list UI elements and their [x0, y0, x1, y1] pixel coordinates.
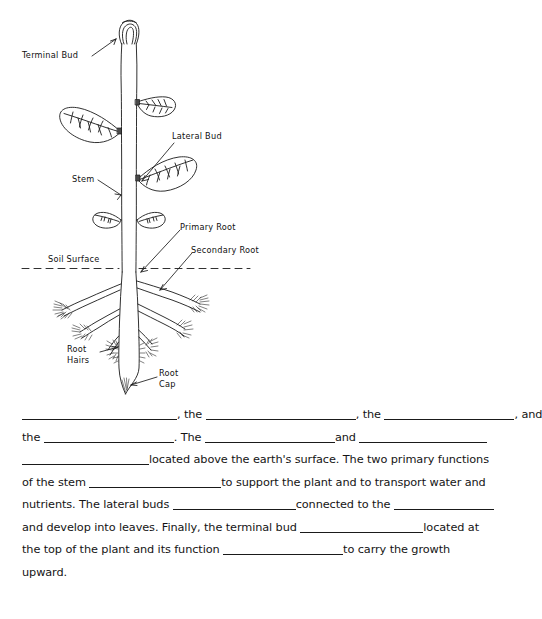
- answer-blank[interactable]: [89, 476, 221, 488]
- answer-blank[interactable]: [44, 431, 174, 443]
- worksheet-text: to carry the growth: [343, 543, 450, 556]
- leaf-mid-right: [136, 157, 197, 191]
- answer-blank[interactable]: [223, 543, 343, 555]
- label-lateral-bud: Lateral Bud: [172, 131, 222, 142]
- worksheet-line-1: , the , the , and: [22, 404, 488, 427]
- leaf-upper-right: [136, 97, 176, 117]
- worksheet-text: located at: [423, 521, 479, 534]
- worksheet-text: and: [335, 431, 359, 444]
- worksheet-text: . The: [174, 431, 205, 444]
- worksheet-line-8: upward.: [22, 562, 488, 585]
- answer-blank[interactable]: [394, 498, 494, 510]
- worksheet-text: connected to the: [296, 498, 394, 511]
- worksheet-text: of the stem: [22, 476, 89, 489]
- label-root-hairs-1: Root: [67, 344, 87, 355]
- answer-blank[interactable]: [384, 408, 514, 420]
- label-stem: Stem: [72, 174, 94, 185]
- worksheet-line-5: nutrients. The lateral buds connected to…: [22, 494, 488, 517]
- secondary-roots-right: [137, 281, 200, 350]
- worksheet-line-6: and develop into leaves. Finally, the te…: [22, 517, 488, 540]
- answer-blank[interactable]: [22, 453, 149, 465]
- plant-diagram: Terminal Bud Lateral Bud Stem Primary Ro…: [0, 0, 510, 400]
- answer-blank[interactable]: [206, 408, 356, 420]
- worksheet-text: nutrients. The lateral buds: [22, 498, 173, 511]
- answer-blank[interactable]: [173, 498, 296, 510]
- leaf-small-left: [93, 212, 121, 228]
- worksheet-text: the: [22, 431, 44, 444]
- label-root-hairs-2: Hairs: [67, 355, 89, 366]
- leaf-upper-left: [60, 107, 122, 142]
- label-soil-surface: Soil Surface: [48, 254, 100, 265]
- worksheet-text: and develop into leaves. Finally, the te…: [22, 521, 300, 534]
- worksheet-line-3: located above the earth's surface. The t…: [22, 449, 488, 472]
- answer-blank[interactable]: [359, 431, 487, 443]
- worksheet-line-4: of the stem to support the plant and to …: [22, 472, 488, 495]
- label-root-cap-1: Root: [159, 368, 179, 379]
- fill-in-the-blank-paragraph: , the , the , andthe . The and located a…: [22, 404, 488, 584]
- answer-blank[interactable]: [300, 521, 423, 533]
- worksheet-line-2: the . The and: [22, 427, 488, 450]
- worksheet-text: to support the plant and to transport wa…: [221, 476, 485, 489]
- worksheet-line-7: the top of the plant and its function to…: [22, 539, 488, 562]
- label-root-cap-2: Cap: [159, 379, 176, 390]
- worksheet-text: located above the earth's surface. The t…: [149, 453, 489, 466]
- worksheet-text: upward.: [22, 566, 67, 579]
- label-secondary-root: Secondary Root: [191, 245, 259, 256]
- answer-blank[interactable]: [22, 408, 177, 420]
- answer-blank[interactable]: [205, 431, 335, 443]
- leaf-small-right: [137, 212, 165, 228]
- worksheet-text: , the: [356, 408, 385, 421]
- worksheet-text: , and: [514, 408, 542, 421]
- terminal-bud-shape: [119, 20, 139, 44]
- label-terminal-bud: Terminal Bud: [22, 50, 78, 61]
- label-primary-root: Primary Root: [180, 222, 236, 233]
- worksheet-text: , the: [177, 408, 206, 421]
- worksheet-text: the top of the plant and its function: [22, 543, 223, 556]
